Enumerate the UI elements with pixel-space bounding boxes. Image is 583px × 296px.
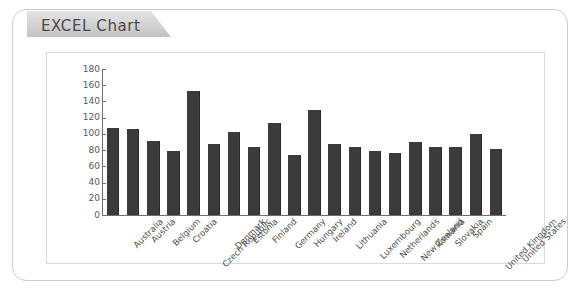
bar[interactable] (107, 128, 119, 215)
bar[interactable] (429, 147, 441, 215)
bar[interactable] (349, 147, 361, 215)
bar[interactable] (228, 132, 240, 215)
y-axis-tick (103, 150, 106, 151)
y-axis-tick-label: 20 (48, 194, 100, 203)
bar[interactable] (187, 91, 199, 215)
excel-chart-card: EXCEL Chart 020406080100120140160180 Aus… (12, 9, 568, 281)
bar[interactable] (208, 144, 220, 215)
bar[interactable] (490, 149, 502, 216)
y-axis-tick-label: 180 (48, 65, 100, 74)
bar[interactable] (308, 110, 320, 215)
y-axis-tick (103, 183, 106, 184)
y-axis-tick (103, 118, 106, 119)
x-axis-tick-label: Lithuania (354, 217, 388, 251)
bar[interactable] (127, 129, 139, 215)
excel-chart-tab-label: EXCEL Chart (41, 14, 141, 38)
bar-series (103, 69, 506, 215)
y-axis-tick-label: 40 (48, 178, 100, 187)
bar-chart: 020406080100120140160180 AustraliaAustri… (46, 55, 545, 261)
excel-chart-tab[interactable]: EXCEL Chart (27, 11, 171, 37)
y-axis-tick-label: 160 (48, 81, 100, 90)
bar[interactable] (449, 147, 461, 215)
bar[interactable] (167, 151, 179, 215)
bar[interactable] (369, 151, 381, 215)
bar[interactable] (328, 144, 340, 215)
y-axis-tick-label: 80 (48, 146, 100, 155)
bar[interactable] (409, 142, 421, 215)
y-axis-tick (103, 134, 106, 135)
y-axis-tick (103, 199, 106, 200)
bar[interactable] (470, 134, 482, 215)
y-axis-labels: 020406080100120140160180 (46, 55, 100, 225)
bar[interactable] (147, 141, 159, 215)
y-axis-tick (103, 69, 106, 70)
x-axis-line (102, 215, 506, 216)
y-axis-tick (103, 215, 106, 216)
bar[interactable] (248, 147, 260, 215)
bar[interactable] (389, 153, 401, 215)
bar[interactable] (268, 123, 280, 215)
y-axis-tick-label: 120 (48, 113, 100, 122)
y-axis-tick (103, 166, 106, 167)
bar[interactable] (288, 155, 300, 215)
y-axis-tick (103, 85, 106, 86)
y-axis-tick-label: 0 (48, 211, 100, 220)
y-axis-tick-label: 100 (48, 129, 100, 138)
y-axis-tick (103, 101, 106, 102)
x-axis-labels: AustraliaAustriaBelgiumCroatiaCzech Repu… (103, 217, 506, 277)
y-axis-tick-label: 60 (48, 162, 100, 171)
y-axis-tick-label: 140 (48, 97, 100, 106)
